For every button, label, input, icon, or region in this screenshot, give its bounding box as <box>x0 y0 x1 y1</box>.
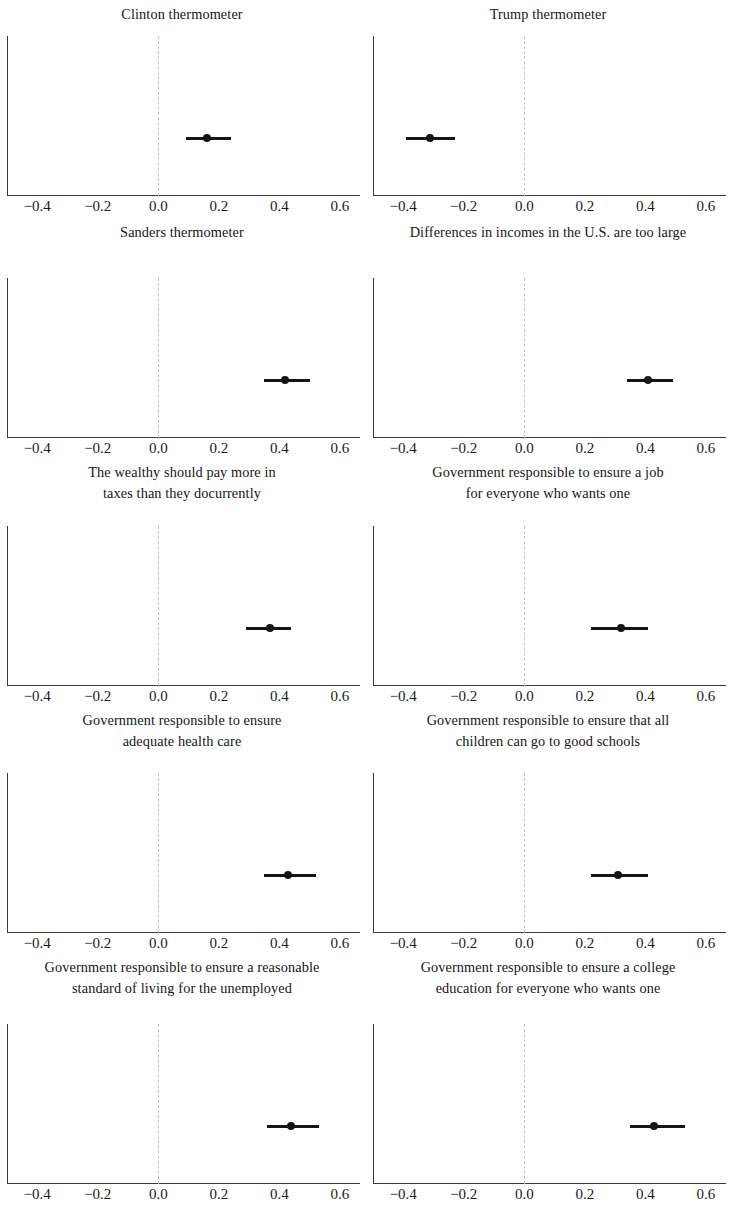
panel-title: Sanders thermometer <box>4 222 360 243</box>
x-tick-label: 0.2 <box>575 196 594 216</box>
x-tick-label: 0.6 <box>330 196 349 216</box>
x-tick-label: −0.4 <box>24 438 51 458</box>
x-tick-label: 0.4 <box>270 1184 289 1204</box>
plot-area <box>373 36 724 196</box>
y-axis-spine <box>7 526 8 686</box>
panel-1: Clinton thermometer−0.4−0.20.00.20.40.6 <box>0 0 366 218</box>
panel-2: Trump thermometer−0.4−0.20.00.20.40.6 <box>366 0 732 218</box>
point-estimate-dot <box>644 376 652 384</box>
plot-area <box>7 526 358 686</box>
x-tick-label: 0.0 <box>149 686 168 706</box>
point-estimate-dot <box>203 134 211 142</box>
point-estimate-dot <box>284 871 292 879</box>
x-tick-label: 0.2 <box>209 1184 228 1204</box>
point-estimate-dot <box>266 624 274 632</box>
y-axis-spine <box>7 278 8 438</box>
zero-reference-line <box>524 36 526 196</box>
panel-4: Differences in incomes in the U.S. are t… <box>366 218 732 460</box>
x-tick-label: 0.6 <box>330 438 349 458</box>
panel-title: Government responsible to ensure a colle… <box>370 957 726 999</box>
y-axis-spine <box>373 526 374 686</box>
x-tick-label: 0.6 <box>696 686 715 706</box>
zero-reference-line <box>158 278 160 438</box>
x-axis-tick-labels: −0.4−0.20.00.20.40.6 <box>7 438 358 460</box>
plot-area <box>373 773 724 933</box>
x-tick-label: 0.6 <box>696 196 715 216</box>
panel-5: The wealthy should pay more in taxes tha… <box>0 460 366 708</box>
x-tick-label: 0.4 <box>636 1184 655 1204</box>
x-tick-label: −0.4 <box>390 933 417 953</box>
y-axis-spine <box>373 278 374 438</box>
panel-title: Government responsible to ensure a job f… <box>370 462 726 504</box>
x-tick-label: −0.4 <box>390 196 417 216</box>
plot-area <box>373 278 724 438</box>
x-tick-label: −0.4 <box>24 1184 51 1204</box>
x-tick-label: −0.2 <box>450 1184 477 1204</box>
y-axis-spine <box>7 36 8 196</box>
x-tick-label: 0.6 <box>330 686 349 706</box>
plot-area <box>7 773 358 933</box>
zero-reference-line <box>524 1024 526 1184</box>
x-axis-tick-labels: −0.4−0.20.00.20.40.6 <box>373 196 724 218</box>
x-tick-label: 0.4 <box>636 438 655 458</box>
y-axis-spine <box>373 1024 374 1184</box>
x-axis-tick-labels: −0.4−0.20.00.20.40.6 <box>7 933 358 955</box>
x-tick-label: −0.4 <box>24 196 51 216</box>
x-tick-label: −0.4 <box>24 686 51 706</box>
x-tick-label: 0.6 <box>696 1184 715 1204</box>
x-tick-label: 0.0 <box>515 438 534 458</box>
x-tick-label: 0.2 <box>575 933 594 953</box>
x-tick-label: 0.2 <box>209 196 228 216</box>
point-estimate-dot <box>617 624 625 632</box>
x-tick-label: −0.2 <box>450 438 477 458</box>
x-tick-label: 0.4 <box>270 438 289 458</box>
zero-reference-line <box>158 36 160 196</box>
point-estimate-dot <box>650 1122 658 1130</box>
x-axis-tick-labels: −0.4−0.20.00.20.40.6 <box>7 196 358 218</box>
x-tick-label: 0.0 <box>515 686 534 706</box>
x-tick-label: −0.2 <box>450 933 477 953</box>
coefficient-plot-figure: Clinton thermometer−0.4−0.20.00.20.40.6T… <box>0 0 732 1206</box>
zero-reference-line <box>158 526 160 686</box>
panel-7: Government responsible to ensure adequat… <box>0 708 366 955</box>
x-tick-label: 0.4 <box>270 196 289 216</box>
point-estimate-dot <box>614 871 622 879</box>
x-tick-label: 0.6 <box>696 933 715 953</box>
y-axis-spine <box>7 1024 8 1184</box>
x-tick-label: −0.4 <box>390 438 417 458</box>
y-axis-spine <box>373 36 374 196</box>
plot-area <box>373 1024 724 1184</box>
x-tick-label: −0.2 <box>450 196 477 216</box>
panel-title: Government responsible to ensure a reaso… <box>4 957 360 999</box>
point-estimate-dot <box>287 1122 295 1130</box>
x-tick-label: 0.0 <box>149 933 168 953</box>
panel-3: Sanders thermometer−0.4−0.20.00.20.40.6 <box>0 218 366 460</box>
x-axis-tick-labels: −0.4−0.20.00.20.40.6 <box>373 933 724 955</box>
panel-9: Government responsible to ensure a reaso… <box>0 955 366 1206</box>
x-tick-label: 0.4 <box>270 933 289 953</box>
x-tick-label: 0.4 <box>636 196 655 216</box>
panel-grid: Clinton thermometer−0.4−0.20.00.20.40.6T… <box>0 0 732 1206</box>
zero-reference-line <box>524 773 526 933</box>
x-tick-label: −0.2 <box>450 686 477 706</box>
x-tick-label: 0.2 <box>209 438 228 458</box>
x-tick-label: 0.6 <box>330 1184 349 1204</box>
x-tick-label: 0.2 <box>575 438 594 458</box>
x-tick-label: 0.0 <box>515 196 534 216</box>
y-axis-spine <box>7 773 8 933</box>
x-tick-label: 0.6 <box>696 438 715 458</box>
zero-reference-line <box>158 773 160 933</box>
plot-area <box>7 278 358 438</box>
x-tick-label: 0.4 <box>636 686 655 706</box>
plot-area <box>7 36 358 196</box>
x-tick-label: 0.2 <box>575 1184 594 1204</box>
panel-title: Government responsible to ensure that al… <box>370 710 726 752</box>
x-tick-label: 0.6 <box>330 933 349 953</box>
x-tick-label: 0.0 <box>149 196 168 216</box>
x-axis-tick-labels: −0.4−0.20.00.20.40.6 <box>373 1184 724 1206</box>
x-tick-label: 0.0 <box>515 933 534 953</box>
panel-title: The wealthy should pay more in taxes tha… <box>4 462 360 504</box>
plot-area <box>373 526 724 686</box>
x-tick-label: 0.2 <box>209 686 228 706</box>
point-estimate-dot <box>281 376 289 384</box>
